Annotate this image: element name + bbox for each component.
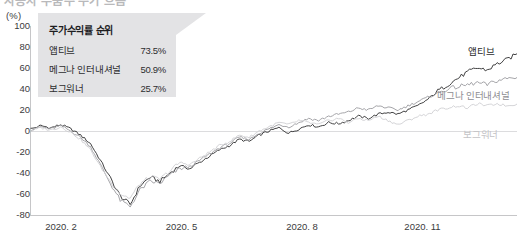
- legend-rows: 앱티브73.5%메그나 인터내셔널50.9%보그워너25.7%: [49, 43, 166, 95]
- legend-row-name: 보그워너: [49, 81, 84, 95]
- y-axis-tick: -20: [4, 147, 30, 157]
- series-line-borgwarner: [31, 103, 517, 198]
- y-axis-tick: -40: [4, 168, 30, 178]
- y-axis-tick: 100: [4, 21, 30, 31]
- series-label-aptiv: 앱티브: [468, 44, 494, 58]
- x-axis-tick: 2020. 2: [45, 221, 77, 232]
- legend-row-value: 50.9%: [141, 64, 166, 75]
- y-axis-tick: 60: [4, 63, 30, 73]
- y-axis-tick: -60: [4, 189, 30, 199]
- series-label-borgwarner: 보그워너: [463, 127, 498, 141]
- legend-row-name: 메그나 인터내셔널: [49, 62, 121, 76]
- legend-row: 앱티브73.5%: [49, 43, 166, 57]
- x-axis-tick: 2020. 8: [286, 221, 318, 232]
- legend-row: 보그워너25.7%: [49, 81, 166, 95]
- y-axis-tick: 40: [4, 84, 30, 94]
- legend-row: 메그나 인터내셔널50.9%: [49, 62, 166, 76]
- legend-box: 주가수익률 순위 앱티브73.5%메그나 인터내셔널50.9%보그워너25.7%: [38, 13, 176, 97]
- legend-row-name: 앱티브: [49, 43, 75, 57]
- y-axis-tick: 20: [4, 105, 30, 115]
- y-axis-ticks: 100806040200-20-40-60-80: [0, 0, 30, 239]
- clipped-headline: 자동차 부품주 주가 흐름: [0, 0, 517, 7]
- legend-row-value: 73.5%: [141, 45, 166, 56]
- series-label-magna: 메그나 인터내셔널: [437, 88, 510, 102]
- legend-title: 주가수익률 순위: [49, 22, 166, 37]
- legend-callout-tail: [176, 13, 206, 35]
- x-axis-line: [30, 215, 517, 216]
- legend-row-value: 25.7%: [141, 83, 166, 94]
- x-axis-tick: 2020. 11: [404, 221, 440, 232]
- y-axis-tick: 0: [4, 126, 30, 136]
- y-axis-tick: 80: [4, 42, 30, 52]
- y-axis-tick: -80: [4, 210, 30, 220]
- chart-root: 자동차 부품주 주가 흐름 (%) 100806040200-20-40-60-…: [0, 0, 517, 239]
- x-axis-tick: 2020. 5: [166, 221, 198, 232]
